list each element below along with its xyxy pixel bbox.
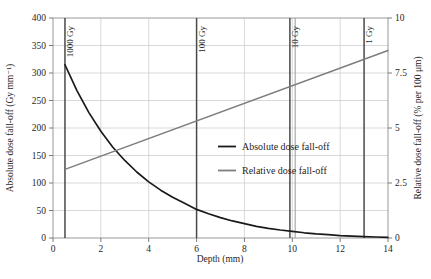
dose-marker-label: 1 Gy [364,26,374,44]
y-tick-label-right: 2.5 [395,178,407,188]
y-axis-left-title: Absolute dose fall-off (Gy mm⁻¹) [5,64,16,193]
series-paths [65,51,388,238]
dose-marker-labels: 1000 Gy100 Gy10 Gy1 Gy [65,26,374,58]
figure-container: 0246810121405010015020025030035040002.55… [0,0,431,279]
y-tick-label-left: 250 [32,96,47,106]
y-axis-right-title: Relative dose fall-off (% per 100 μm) [413,56,424,199]
dose-marker-label: 1000 Gy [65,26,75,58]
y-tick-label-right: 10 [395,13,405,23]
y-tick-label-left: 0 [41,233,46,243]
x-tick-label: 0 [51,244,56,254]
x-tick-label: 12 [335,244,345,254]
x-tick-label: 8 [242,244,247,254]
x-tick-label: 6 [194,244,199,254]
dose-marker-label: 10 Gy [290,26,300,49]
x-axis-title: Depth (mm) [197,254,244,265]
y-tick-label-left: 400 [32,13,47,23]
y-tick-label-right: 5 [395,123,400,133]
dose-marker-label: 100 Gy [197,26,207,53]
legend-label-absolute: Absolute dose fall-off [242,141,330,152]
y-tick-label-right: 7.5 [395,68,407,78]
legend-label-relative: Relative dose fall-off [242,165,327,176]
figure-caption [0,270,431,279]
gridlines [53,18,388,238]
x-tick-label: 2 [98,244,103,254]
dose-falloff-chart: 0246810121405010015020025030035040002.55… [0,0,431,279]
x-tick-label: 10 [288,244,298,254]
y-tick-label-right: 0 [395,233,400,243]
y-tick-label-left: 300 [32,68,47,78]
x-tick-label: 14 [383,244,393,254]
y-tick-label-left: 50 [37,206,47,216]
y-tick-label-left: 150 [32,151,47,161]
y-tick-label-left: 100 [32,178,47,188]
y-tick-label-left: 200 [32,123,47,133]
x-tick-label: 4 [146,244,151,254]
y-tick-label-left: 350 [32,41,47,51]
chart-legend: Absolute dose fall-off Relative dose fal… [218,141,330,176]
